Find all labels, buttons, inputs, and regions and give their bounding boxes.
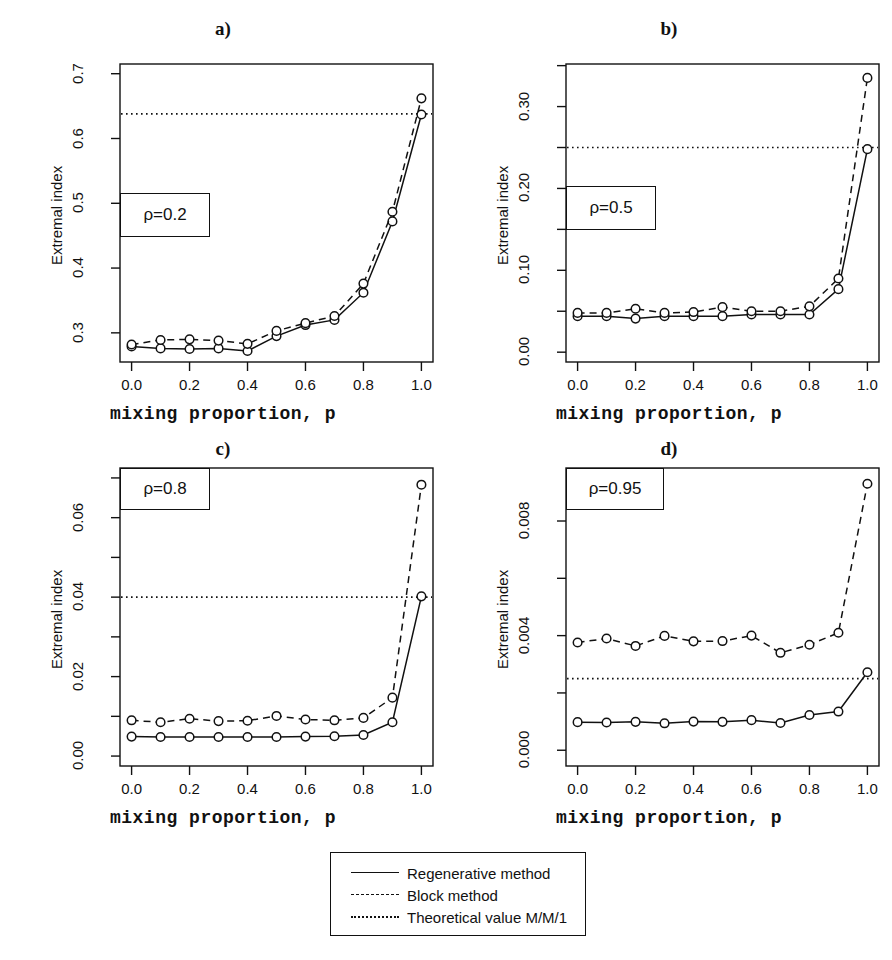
y-tick-label: 0.6 — [69, 108, 86, 168]
rho-annotation-label: ρ=0.8 — [143, 479, 186, 499]
data-point-marker — [185, 345, 194, 354]
data-point-marker — [573, 718, 582, 727]
data-point-marker — [660, 309, 669, 318]
data-point-marker — [660, 719, 669, 728]
legend-key-dotted-line-icon — [349, 911, 401, 923]
y-tick-label: 0.06 — [69, 487, 86, 547]
data-point-marker — [660, 632, 669, 641]
data-point-marker — [776, 307, 785, 316]
data-point-marker — [747, 716, 756, 725]
data-point-marker — [602, 718, 611, 727]
y-axis-label: Extremal index — [48, 570, 65, 669]
data-point-marker — [388, 718, 397, 727]
x-tick-label: 0.6 — [721, 376, 781, 393]
rho-annotation-label: ρ=0.5 — [589, 198, 632, 218]
y-tick-label: 0.10 — [515, 240, 532, 300]
data-point-marker — [718, 312, 727, 321]
data-point-marker — [631, 718, 640, 727]
x-tick-label: 0.0 — [548, 780, 608, 797]
data-point-marker — [417, 94, 426, 103]
x-tick-label: 0.6 — [275, 780, 335, 797]
data-point-marker — [776, 719, 785, 728]
data-point-marker — [156, 344, 165, 353]
x-tick-label: 0.2 — [160, 376, 220, 393]
data-point-marker — [689, 637, 698, 646]
x-tick-label: 1.0 — [837, 376, 892, 393]
x-tick-label: 0.8 — [779, 376, 839, 393]
data-point-marker — [834, 285, 843, 294]
data-point-marker — [156, 336, 165, 345]
panel-plot-area-c — [0, 420, 446, 840]
data-point-marker — [573, 309, 582, 318]
data-point-marker — [185, 714, 194, 723]
data-point-marker — [863, 479, 872, 488]
x-tick-label: 0.4 — [664, 780, 724, 797]
x-tick-label: 0.0 — [102, 376, 162, 393]
x-tick-label: 0.4 — [218, 780, 278, 797]
y-axis-label: Extremal index — [494, 570, 511, 669]
data-point-marker — [214, 336, 223, 345]
rho-annotation-label: ρ=0.2 — [143, 205, 186, 225]
data-point-marker — [359, 279, 368, 288]
y-tick-label: 0.00 — [515, 322, 532, 382]
legend-key-dashed-line-icon — [349, 889, 401, 901]
x-tick-label: 0.0 — [548, 376, 608, 393]
y-tick-label: 0.000 — [515, 720, 532, 780]
legend-label: Theoretical value M/M/1 — [401, 909, 567, 926]
y-tick-label: 0.00 — [69, 726, 86, 786]
data-point-marker — [185, 335, 194, 344]
data-point-marker — [301, 732, 310, 741]
x-tick-label: 0.4 — [218, 376, 278, 393]
data-point-marker — [834, 274, 843, 283]
data-point-marker — [747, 631, 756, 640]
data-point-marker — [388, 693, 397, 702]
figure-root: a) 0.00.20.40.60.81.00.30.40.50.60.7Extr… — [0, 0, 892, 960]
data-point-marker — [330, 732, 339, 741]
data-point-marker — [388, 217, 397, 226]
data-point-marker — [214, 733, 223, 742]
data-point-marker — [718, 637, 727, 646]
x-tick-label: 1.0 — [837, 780, 892, 797]
legend-box: Regenerative method Block method Theoret… — [330, 852, 586, 936]
y-tick-label: 0.004 — [515, 605, 532, 665]
data-point-marker — [156, 733, 165, 742]
data-point-marker — [805, 310, 814, 319]
y-tick-label: 0.02 — [69, 646, 86, 706]
data-point-marker — [602, 634, 611, 643]
data-point-marker — [330, 716, 339, 725]
data-point-marker — [243, 340, 252, 349]
y-tick-label: 0.4 — [69, 238, 86, 298]
x-tick-label: 0.6 — [275, 376, 335, 393]
legend-label: Block method — [401, 887, 498, 904]
data-point-marker — [214, 717, 223, 726]
legend-label: Regenerative method — [401, 865, 550, 882]
data-point-marker — [301, 319, 310, 328]
data-point-marker — [301, 715, 310, 724]
y-tick-label: 0.04 — [69, 567, 86, 627]
y-tick-label: 0.008 — [515, 491, 532, 551]
rho-annotation-box: ρ=0.8 — [120, 468, 210, 510]
data-point-marker — [631, 304, 640, 313]
data-point-marker — [573, 638, 582, 647]
rho-annotation-label: ρ=0.95 — [589, 479, 642, 499]
y-tick-label: 0.20 — [515, 158, 532, 218]
data-point-marker — [805, 640, 814, 649]
data-point-marker — [863, 74, 872, 83]
x-tick-label: 0.2 — [606, 376, 666, 393]
legend-row: Block method — [331, 884, 585, 906]
data-point-marker — [359, 288, 368, 297]
y-tick-label: 0.30 — [515, 76, 532, 136]
x-tick-label: 0.8 — [779, 780, 839, 797]
data-point-marker — [602, 309, 611, 318]
data-point-marker — [631, 642, 640, 651]
data-point-marker — [863, 668, 872, 677]
data-point-marker — [718, 303, 727, 312]
data-point-marker — [127, 732, 136, 741]
legend-row: Theoretical value M/M/1 — [331, 906, 585, 928]
data-point-marker — [805, 302, 814, 311]
x-tick-label: 0.6 — [721, 780, 781, 797]
legend-key-solid-line-icon — [349, 867, 401, 879]
data-point-marker — [388, 207, 397, 216]
x-tick-label: 0.8 — [333, 780, 393, 797]
x-tick-label: 0.0 — [102, 780, 162, 797]
